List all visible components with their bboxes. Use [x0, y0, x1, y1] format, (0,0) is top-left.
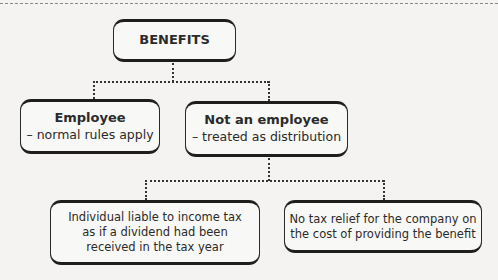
- connector-not-employee-down: [268, 158, 270, 181]
- root-node-label: BENEFITS: [139, 32, 210, 49]
- node-no-tax-relief-line-2: the cost of providing the benefit: [290, 227, 475, 242]
- node-individual-liable: Individual liable to income tax as if a …: [50, 200, 260, 265]
- node-individual-line-3: received in the tax year: [86, 240, 223, 255]
- node-not-employee: Not an employee – treated as distributio…: [185, 101, 348, 157]
- connector-to-no-tax-relief: [383, 180, 385, 200]
- node-individual-line-1: Individual liable to income tax: [68, 210, 242, 225]
- node-individual-line-2: as if a dividend had been: [82, 225, 227, 240]
- node-employee-subtitle: – normal rules apply: [26, 127, 153, 143]
- connector-to-employee: [93, 81, 95, 99]
- node-no-tax-relief: No tax relief for the company on the cos…: [284, 200, 482, 253]
- connector-level1-horizontal: [93, 81, 269, 83]
- connector-to-individual: [145, 180, 147, 200]
- root-node-benefits: BENEFITS: [113, 19, 236, 62]
- connector-root-down: [172, 63, 174, 82]
- connector-to-not-employee: [268, 81, 270, 101]
- node-employee: Employee – normal rules apply: [20, 99, 160, 154]
- page-top-divider: [0, 3, 498, 4]
- bleedthrough-text: [8, 22, 11, 34]
- node-not-employee-title: Not an employee: [204, 112, 328, 129]
- node-employee-title: Employee: [54, 110, 125, 127]
- node-no-tax-relief-line-1: No tax relief for the company on: [289, 212, 476, 227]
- connector-level2-horizontal: [145, 180, 384, 182]
- node-not-employee-subtitle: – treated as distribution: [192, 129, 341, 145]
